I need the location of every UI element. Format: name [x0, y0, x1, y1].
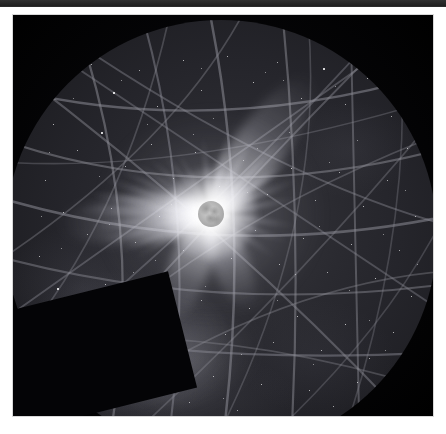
- star-point: [49, 152, 50, 153]
- star-point: [41, 216, 42, 217]
- star-point: [405, 190, 406, 191]
- eclipsing-moon-disk: [198, 201, 224, 227]
- star-point: [183, 60, 184, 61]
- star-point: [399, 250, 400, 251]
- moon-surface-texture: [198, 201, 224, 227]
- star-point: [415, 216, 416, 217]
- star-point: [333, 406, 334, 407]
- star-point: [387, 180, 388, 181]
- star-point: [363, 206, 364, 207]
- star-point: [227, 56, 228, 57]
- star-point: [277, 62, 278, 63]
- star-point: [139, 70, 140, 71]
- star-point: [323, 68, 325, 70]
- star-point: [381, 410, 382, 411]
- eclipse-allsky-photograph: [13, 15, 433, 416]
- star-point: [313, 364, 314, 365]
- star-point: [223, 398, 224, 399]
- star-point: [237, 410, 238, 411]
- star-point: [407, 148, 408, 149]
- star-point: [393, 332, 394, 333]
- solar-prominence: [191, 206, 196, 211]
- star-point: [91, 64, 92, 65]
- page-root: [0, 0, 446, 434]
- page-header-strip-gradient: [0, 0, 446, 6]
- star-point: [309, 390, 310, 391]
- star-point: [53, 124, 54, 125]
- page-header-strip: [0, 0, 446, 7]
- star-point: [383, 234, 384, 235]
- star-point: [357, 382, 358, 383]
- star-point: [369, 320, 370, 321]
- star-point: [417, 264, 418, 265]
- star-point: [385, 350, 386, 351]
- solar-prominence: [205, 228, 210, 233]
- star-point: [213, 376, 214, 377]
- star-point: [391, 116, 392, 117]
- sky-stage: [13, 15, 433, 416]
- star-point: [261, 384, 262, 385]
- star-point: [411, 296, 412, 297]
- star-point: [241, 354, 242, 355]
- star-point: [189, 402, 190, 403]
- star-point: [45, 180, 46, 181]
- star-point: [57, 288, 59, 290]
- solar-prominence: [224, 213, 230, 219]
- star-point: [265, 72, 266, 73]
- star-point: [367, 78, 368, 79]
- star-point: [201, 68, 202, 69]
- star-point: [375, 278, 376, 279]
- star-point: [403, 372, 404, 373]
- star-point: [39, 256, 40, 257]
- star-point: [369, 358, 370, 359]
